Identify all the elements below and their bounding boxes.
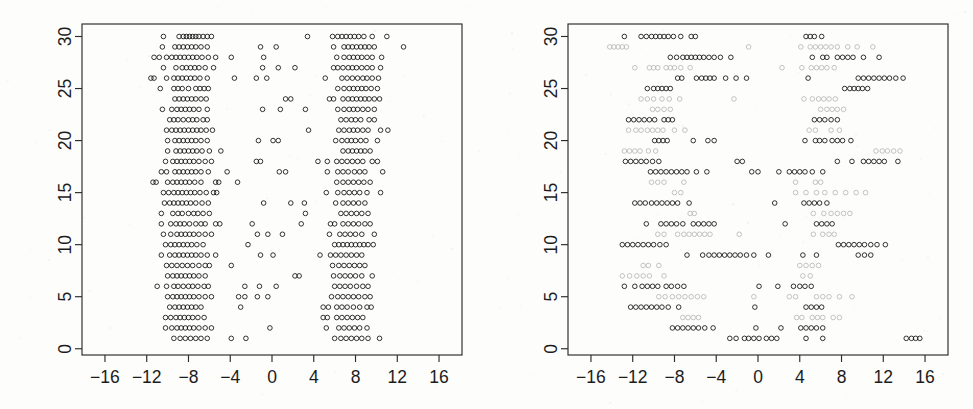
data-point xyxy=(159,170,164,175)
data-point xyxy=(855,45,860,50)
data-point xyxy=(340,315,345,320)
data-point xyxy=(168,222,173,227)
data-point xyxy=(804,190,809,195)
y-tick-label: 0 xyxy=(541,344,561,354)
data-point xyxy=(657,294,662,299)
data-point xyxy=(817,117,822,122)
data-point xyxy=(378,190,383,195)
data-point xyxy=(803,284,808,289)
data-point xyxy=(324,190,329,195)
x-tick-label: −4 xyxy=(706,367,726,387)
data-point xyxy=(342,326,347,331)
data-point xyxy=(181,284,186,289)
data-point xyxy=(196,315,201,320)
data-point xyxy=(633,149,638,154)
data-point xyxy=(814,65,819,70)
data-point xyxy=(821,97,826,102)
data-point xyxy=(159,253,164,258)
data-point xyxy=(260,65,265,70)
data-point xyxy=(756,170,761,175)
data-point xyxy=(199,170,204,175)
data-point xyxy=(254,76,259,81)
data-point xyxy=(697,232,702,237)
x-tick-label: 0 xyxy=(753,367,763,387)
data-point xyxy=(875,242,880,247)
data-point xyxy=(841,211,846,216)
data-point xyxy=(225,170,230,175)
scatter-row xyxy=(161,190,383,195)
data-point xyxy=(316,159,321,164)
data-point xyxy=(340,76,345,81)
data-point xyxy=(368,294,373,299)
data-point xyxy=(695,294,700,299)
data-point xyxy=(814,222,819,227)
data-point xyxy=(356,201,361,206)
x-axis: −16−12−8−40481216 xyxy=(90,355,449,387)
data-point xyxy=(802,201,807,206)
data-point xyxy=(198,76,203,81)
data-point xyxy=(186,86,191,91)
data-point xyxy=(682,232,687,237)
data-point xyxy=(691,222,696,227)
y-tick-label: 20 xyxy=(541,131,561,151)
data-point xyxy=(258,253,263,258)
data-point xyxy=(338,232,343,237)
data-point xyxy=(628,305,633,310)
data-point xyxy=(174,65,179,70)
scatter-row xyxy=(657,294,855,299)
data-point xyxy=(268,326,273,331)
data-point xyxy=(809,65,814,70)
data-point xyxy=(163,159,168,164)
data-point xyxy=(649,201,654,206)
data-point xyxy=(835,45,840,50)
data-point xyxy=(874,149,879,154)
data-point xyxy=(366,107,371,112)
data-point xyxy=(164,170,169,175)
data-point xyxy=(894,76,899,81)
data-point xyxy=(303,211,308,216)
data-point xyxy=(205,253,210,258)
data-point xyxy=(640,284,645,289)
data-point xyxy=(807,201,812,206)
data-point xyxy=(646,242,651,247)
data-point xyxy=(674,222,679,227)
data-point xyxy=(203,65,208,70)
data-point xyxy=(372,107,377,112)
data-point xyxy=(801,253,806,258)
data-point xyxy=(799,326,804,331)
data-point xyxy=(831,315,836,320)
data-point xyxy=(271,253,276,258)
data-point xyxy=(636,242,641,247)
data-point xyxy=(332,284,337,289)
data-point xyxy=(666,305,671,310)
data-point xyxy=(205,336,210,341)
data-point xyxy=(823,117,828,122)
data-point xyxy=(199,253,204,258)
data-point xyxy=(675,201,680,206)
data-point xyxy=(901,76,906,81)
data-point xyxy=(343,284,348,289)
data-point xyxy=(816,263,821,268)
data-point xyxy=(366,284,371,289)
data-point xyxy=(674,170,679,175)
data-point xyxy=(850,294,855,299)
data-point xyxy=(622,149,627,154)
data-point xyxy=(639,159,644,164)
scatter-row xyxy=(151,180,373,185)
data-point xyxy=(744,76,749,81)
data-point xyxy=(830,138,835,143)
data-point xyxy=(363,263,368,268)
data-point xyxy=(333,138,338,143)
data-point xyxy=(214,190,219,195)
data-point xyxy=(349,253,354,258)
data-point xyxy=(213,55,218,60)
data-point xyxy=(819,65,824,70)
data-point xyxy=(345,305,350,310)
data-point xyxy=(350,159,355,164)
data-point xyxy=(655,232,660,237)
scatter-row xyxy=(160,45,406,50)
data-point xyxy=(306,128,311,133)
scatter-row xyxy=(633,201,830,206)
data-point xyxy=(348,284,353,289)
data-point xyxy=(370,55,375,60)
